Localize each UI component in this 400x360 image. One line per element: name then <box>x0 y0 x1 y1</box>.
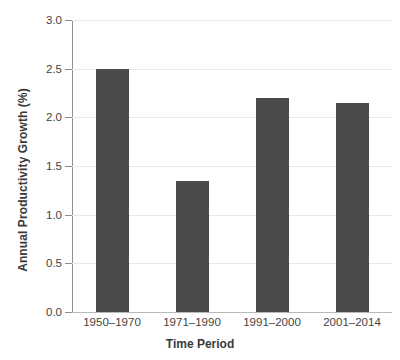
y-axis-tick-label-text: 2.0 <box>32 111 62 123</box>
y-axis-tick-label-text: 1.0 <box>32 209 62 221</box>
gridline <box>72 20 392 21</box>
y-axis-tick-label-text: 3.0 <box>32 14 62 26</box>
gridline <box>72 312 392 313</box>
y-axis-tick-mark <box>65 215 72 216</box>
y-axis-tick-label-text: 0.5 <box>32 257 62 269</box>
x-axis-title: Time Period <box>0 337 400 351</box>
x-axis-tick-label: 1950–1970 <box>83 316 141 328</box>
y-axis-title: Annual Productivity Growth (%) <box>0 0 22 360</box>
y-axis-tick-mark <box>65 20 72 21</box>
y-axis-tick-mark <box>65 117 72 118</box>
y-axis-tick-label-text: 2.5 <box>32 63 62 75</box>
bar <box>176 181 209 312</box>
y-axis-title-text: Annual Productivity Growth (%) <box>16 88 30 272</box>
x-axis-tick-label: 2001–2014 <box>323 316 381 328</box>
x-axis-tick-label: 1971–1990 <box>163 316 221 328</box>
x-axis-tick-label: 1991–2000 <box>243 316 301 328</box>
bar <box>256 98 289 312</box>
y-axis-tick-mark <box>65 69 72 70</box>
y-axis-tick-label-text: 0.0 <box>32 306 62 318</box>
y-axis-tick-mark <box>65 312 72 313</box>
y-axis-tick-mark <box>65 166 72 167</box>
bar <box>96 69 129 312</box>
y-axis-tick-mark <box>65 263 72 264</box>
bar <box>336 103 369 312</box>
bar-chart-figure: Annual Productivity Growth (%) 0.00.51.0… <box>0 0 400 360</box>
y-axis-tick-label-text: 1.5 <box>32 160 62 172</box>
plot-area <box>72 20 392 312</box>
